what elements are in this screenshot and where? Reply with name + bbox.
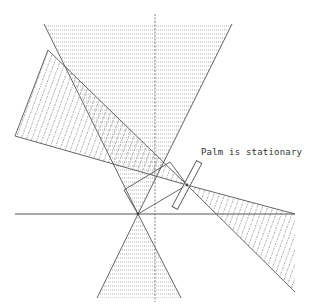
- bottom-cone-hatch: [97, 214, 181, 298]
- palm-annotation: Palm is stationary: [201, 147, 302, 157]
- palm-pivot: [186, 184, 189, 187]
- origin-point: [137, 213, 140, 216]
